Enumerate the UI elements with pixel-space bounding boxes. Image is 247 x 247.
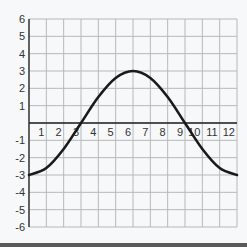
y-tick-label: -6 bbox=[15, 221, 25, 233]
x-tick-label: 11 bbox=[206, 126, 217, 138]
y-tick-label: 5 bbox=[19, 30, 25, 42]
y-tick-label: -5 bbox=[15, 204, 25, 216]
bottom-border bbox=[0, 243, 247, 247]
y-tick-label: -4 bbox=[15, 186, 25, 198]
x-tick-label: 2 bbox=[56, 126, 62, 138]
x-tick-label: 12 bbox=[223, 126, 235, 138]
y-tick-label: -3 bbox=[15, 169, 25, 181]
x-tick-label: 7 bbox=[142, 126, 148, 138]
y-tick-label: 4 bbox=[19, 48, 25, 60]
x-tick-label: 8 bbox=[160, 126, 166, 138]
y-tick-label: 6 bbox=[19, 13, 25, 25]
x-tick-labels: 123456789101112 bbox=[38, 126, 235, 138]
x-tick-label: 6 bbox=[125, 126, 131, 138]
y-tick-label: 3 bbox=[19, 65, 25, 77]
x-tick-label: 4 bbox=[90, 126, 96, 138]
line-chart: 654321-1-2-3-4-5-6 123456789101112 bbox=[0, 0, 247, 247]
y-tick-label: 1 bbox=[19, 100, 25, 112]
y-tick-labels: 654321-1-2-3-4-5-6 bbox=[15, 13, 25, 233]
x-tick-label: 5 bbox=[108, 126, 114, 138]
x-tick-label: 9 bbox=[177, 126, 183, 138]
x-tick-label: 1 bbox=[38, 126, 44, 138]
y-tick-label: 2 bbox=[19, 82, 25, 94]
y-tick-label: -1 bbox=[15, 134, 25, 146]
y-tick-label: -2 bbox=[15, 152, 25, 164]
